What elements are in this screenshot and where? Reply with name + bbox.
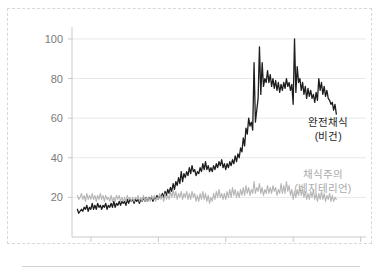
y-tick-label-100: 100 — [45, 33, 63, 45]
series-label-vegetarian-line2: (베지테리언) — [294, 182, 351, 194]
y-tick-label-80: 80 — [51, 73, 63, 85]
trends-line-chart: 20406080100 20052010201520202025 완전채식(비건… — [8, 9, 373, 245]
series-label-vegetarian-line1: 채식주의 — [303, 168, 343, 180]
y-tick-label-20: 20 — [51, 191, 63, 203]
series-label-vegan-line2: (비건) — [315, 130, 342, 142]
y-tick-labels-group: 20406080100 — [45, 33, 63, 203]
series-label-vegan-line1: 완전채식 — [308, 116, 348, 128]
footer-divider — [22, 266, 360, 267]
y-tick-label-40: 40 — [51, 152, 63, 164]
chart-figure: 20406080100 20052010201520202025 완전채식(비건… — [7, 8, 372, 244]
series-inline-labels-group: 완전채식(비건)채식주의(베지테리언) — [294, 116, 351, 194]
y-tick-label-60: 60 — [51, 112, 63, 124]
